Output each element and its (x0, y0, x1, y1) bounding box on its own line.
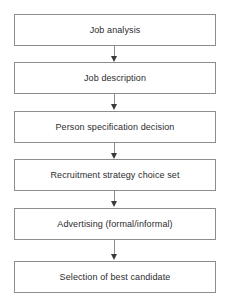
flowchart-node-job-description: Job description (14, 62, 216, 94)
flowchart-connector-3 (14, 143, 216, 159)
flowchart-node-label: Person specification decision (56, 122, 175, 133)
arrow-down-icon (111, 254, 117, 260)
arrow-down-icon (111, 153, 117, 159)
flowchart-node-recruitment-strategy-choice-set: Recruitment strategy choice set (14, 159, 216, 191)
flowchart-node-person-specification-decision: Person specification decision (14, 111, 216, 143)
flowchart-connector-4 (14, 191, 216, 208)
flowchart-node-label: Recruitment strategy choice set (50, 170, 179, 181)
flowchart-connector-2 (14, 94, 216, 111)
flowchart-node-advertising-formal-informal: Advertising (formal/informal) (14, 208, 216, 240)
flowchart-node-label: Job description (84, 73, 146, 84)
flowchart-node-label: Advertising (formal/informal) (57, 219, 172, 230)
flowchart-node-job-analysis: Job analysis (14, 14, 216, 46)
arrow-down-icon (111, 104, 117, 110)
flowchart-node-selection-of-best-candidate: Selection of best candidate (14, 261, 216, 293)
flowchart-connector-1 (14, 46, 216, 62)
arrow-down-icon (111, 56, 117, 62)
flowchart-node-label: Selection of best candidate (60, 272, 171, 283)
flowchart-diagram: Job analysis Job description Person spec… (0, 0, 230, 299)
flowchart-connector-5 (14, 240, 216, 261)
flowchart-node-label: Job analysis (90, 25, 141, 36)
arrow-down-icon (111, 201, 117, 207)
flowchart-node-chain: Job analysis Job description Person spec… (14, 14, 216, 293)
